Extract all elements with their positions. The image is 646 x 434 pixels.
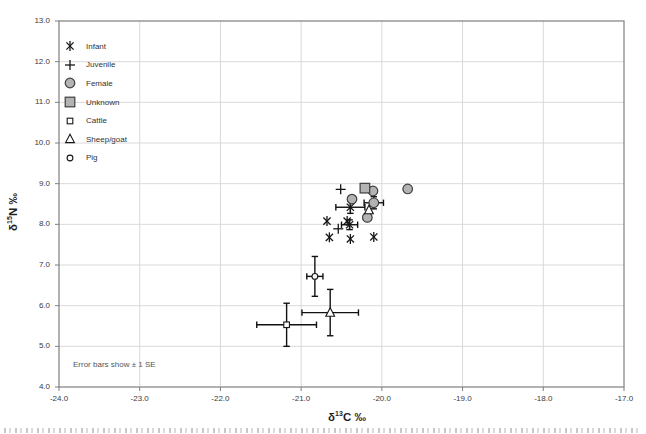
y-axis-title: δ15N ‰: [6, 176, 22, 248]
plot-area: [53, 15, 630, 393]
unknown-marker-icon-glyph: [65, 97, 75, 107]
sheep-goat-marker-icon-glyph: [66, 134, 75, 142]
y-tick-label: 13.0: [16, 16, 50, 26]
sheep-goat-marker-icon: [63, 132, 77, 146]
unknown-marker-icon: [63, 95, 77, 109]
marker-pig: [312, 273, 318, 279]
female-marker-icon: [63, 76, 77, 90]
errorbar-note: Error bars show ± 1 SE: [73, 360, 156, 369]
marker-female: [347, 194, 357, 204]
juvenile-marker-icon: [63, 58, 77, 72]
legend-label: Sheep/goat: [77, 135, 127, 144]
legend-item-juvenile: Juvenile: [63, 56, 127, 75]
y-tick-label: 6.0: [16, 301, 50, 311]
x-tick-label: -24.0: [39, 394, 79, 404]
cropped-caption-artifact: [4, 428, 642, 433]
legend-label: Pig: [77, 153, 98, 162]
infant-marker-icon: [63, 39, 77, 53]
plot-frame: [59, 21, 624, 387]
legend-label: Juvenile: [77, 60, 115, 69]
isotope-scatter-figure: 13.012.011.010.09.08.07.06.05.04.0 -24.0…: [0, 0, 646, 434]
legend-item-sheep-goat: Sheep/goat: [63, 130, 127, 149]
legend-label: Unknown: [77, 98, 119, 107]
pig-marker-icon: [63, 151, 77, 165]
legend-item-infant: Infant: [63, 37, 127, 56]
y-tick-label: 12.0: [16, 57, 50, 67]
y-tick-label: 11.0: [16, 97, 50, 107]
cattle-marker-icon-glyph: [67, 118, 73, 124]
legend-label: Infant: [77, 42, 106, 51]
legend-item-female: Female: [63, 74, 127, 93]
legend-item-pig: Pig: [63, 149, 127, 168]
marker-female: [403, 184, 413, 194]
legend: Infant Juvenile Female Unknown Cattle Sh…: [63, 37, 127, 167]
x-axis-title: δ13C ‰: [302, 410, 392, 423]
x-tick-label: -21.0: [281, 394, 321, 404]
y-tick-label: 5.0: [16, 341, 50, 351]
x-tick-label: -17.0: [604, 394, 644, 404]
marker-unknown: [360, 183, 370, 193]
cattle-marker-icon: [63, 114, 77, 128]
x-tick-label: -18.0: [523, 394, 563, 404]
x-tick-label: -22.0: [200, 394, 240, 404]
pig-marker-icon-glyph: [67, 155, 73, 161]
marker-cattle: [284, 322, 290, 328]
legend-label: Female: [77, 79, 113, 88]
legend-label: Cattle: [77, 116, 107, 125]
female-marker-icon-glyph: [65, 79, 75, 89]
legend-item-cattle: Cattle: [63, 111, 127, 130]
y-tick-label: 10.0: [16, 138, 50, 148]
x-tick-label: -19.0: [443, 394, 483, 404]
marker-female: [369, 198, 379, 208]
legend-item-unknown: Unknown: [63, 93, 127, 112]
x-tick-label: -23.0: [120, 394, 160, 404]
x-tick-label: -20.0: [362, 394, 402, 404]
y-tick-label: 7.0: [16, 260, 50, 270]
y-tick-label: 4.0: [16, 382, 50, 392]
